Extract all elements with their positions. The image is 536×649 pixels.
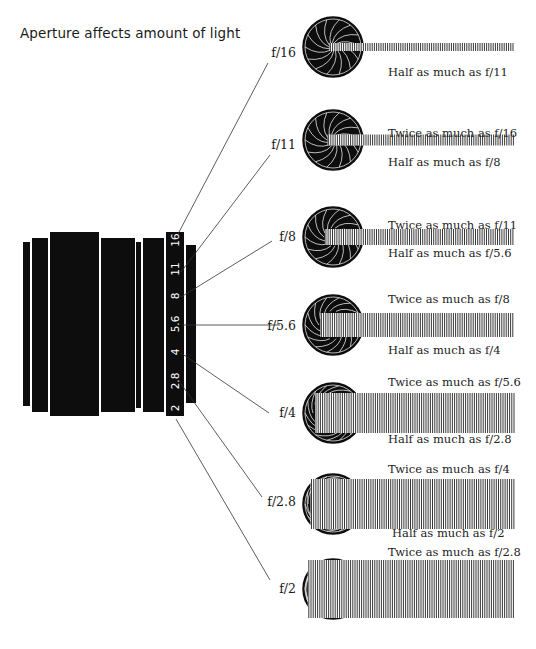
label-f8: f/8 bbox=[246, 229, 296, 244]
caption-f16-half: Half as much as f/11 bbox=[388, 65, 508, 79]
scale-11: 11 bbox=[169, 257, 181, 281]
caption-f2-twice: Twice as much as f/2.8 bbox=[388, 545, 521, 559]
scale-2-8: 2.8 bbox=[169, 369, 181, 393]
caption-f4-twice: Twice as much as f/5.6 bbox=[388, 375, 521, 389]
caption-f5-6-half: Half as much as f/4 bbox=[388, 343, 501, 357]
caption-f11-twice: Twice as much as f/16 bbox=[388, 126, 517, 140]
label-f16: f/16 bbox=[246, 45, 296, 60]
caption-f5-6-twice: Twice as much as f/8 bbox=[388, 292, 510, 306]
label-f11: f/11 bbox=[246, 137, 296, 152]
caption-f2-8-twice: Twice as much as f/4 bbox=[388, 462, 510, 476]
caption-f8-twice: Twice as much as f/11 bbox=[388, 218, 517, 232]
scale-8: 8 bbox=[169, 284, 181, 308]
caption-f11-half: Half as much as f/8 bbox=[388, 155, 501, 169]
label-f5-6: f/5.6 bbox=[246, 318, 296, 333]
label-f2-8: f/2.8 bbox=[246, 494, 296, 509]
label-f4: f/4 bbox=[246, 405, 296, 420]
caption-f2-8-half: Half as much as f/2 bbox=[392, 526, 505, 540]
scale-4: 4 bbox=[169, 340, 181, 364]
diaphragm-f2-8 bbox=[303, 474, 514, 534]
scale-16: 16 bbox=[169, 228, 181, 252]
scale-2: 2 bbox=[169, 396, 181, 420]
caption-f8-half: Half as much as f/5.6 bbox=[388, 246, 512, 260]
caption-f4-half: Half as much as f/2.8 bbox=[388, 432, 512, 446]
label-f2: f/2 bbox=[246, 581, 296, 596]
diaphragm-f2 bbox=[303, 559, 514, 619]
scale-5-6: 5.6 bbox=[169, 312, 181, 336]
